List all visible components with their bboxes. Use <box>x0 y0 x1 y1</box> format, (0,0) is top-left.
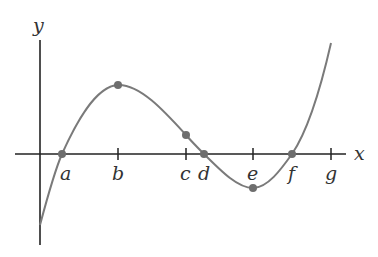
x-axis-label: x <box>354 142 365 164</box>
point-root-d <box>200 150 208 158</box>
point-root-a <box>58 150 66 158</box>
tick-label-a: a <box>60 162 71 184</box>
point-inflection-c <box>182 131 190 139</box>
function-graph-diagram: y x a b c d e f g <box>0 0 378 257</box>
tick-label-d: d <box>198 162 210 184</box>
tick-label-g: g <box>325 162 337 184</box>
point-root-f <box>288 150 296 158</box>
y-axis-label: y <box>32 14 44 36</box>
curve-points <box>58 81 296 192</box>
graph-svg: y x a b c d e f g <box>0 0 378 257</box>
tick-label-f: f <box>286 162 298 184</box>
tick-label-b: b <box>112 162 124 184</box>
point-local-min-e <box>249 184 257 192</box>
tick-label-c: c <box>180 162 191 184</box>
point-local-max-b <box>114 81 122 89</box>
tick-label-e: e <box>247 162 258 184</box>
